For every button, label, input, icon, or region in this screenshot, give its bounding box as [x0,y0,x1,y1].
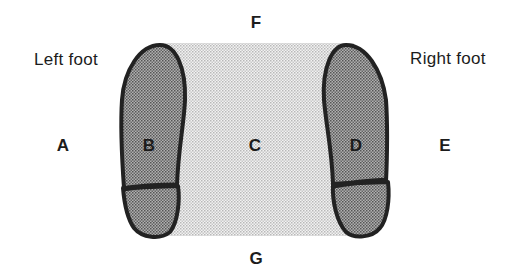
region-label-c: C [249,137,261,154]
region-label-d: D [350,137,362,154]
region-label-b: B [143,137,155,154]
right-foot-caption: Right foot [410,50,486,67]
left-foot-caption: Left foot [34,51,98,68]
region-label-e: E [439,137,450,154]
foot-position-diagram: Left foot Right foot F A B C D E G [0,0,524,276]
region-label-f: F [251,14,261,31]
region-label-a: A [57,137,69,154]
region-label-g: G [249,250,262,267]
